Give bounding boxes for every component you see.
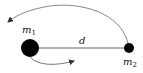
two-body-diagram: m1 d m2 (0, 0, 143, 73)
mass-m1 (21, 39, 39, 57)
m1-label: m1 (22, 24, 36, 37)
distance-label: d (79, 35, 85, 46)
inner-orbit-arrow (30, 57, 74, 64)
mass-m2 (124, 43, 134, 53)
m2-label: m2 (123, 56, 137, 69)
